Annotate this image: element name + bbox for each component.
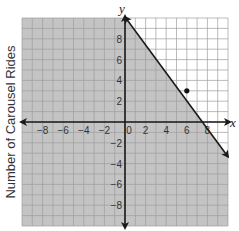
x-tick-label: −2 <box>99 125 111 136</box>
x-tick-label: 2 <box>143 125 149 136</box>
data-point-dot <box>184 88 189 93</box>
y-tick-label: −6 <box>111 179 123 190</box>
data-points <box>184 88 189 93</box>
x-tick-label: 4 <box>163 125 169 136</box>
x-axis-label: x <box>229 115 236 130</box>
y-tick-label: 8 <box>116 34 122 45</box>
y-tick-label: −8 <box>111 200 123 211</box>
x-tick-label: 6 <box>184 125 190 136</box>
y-tick-label: −2 <box>111 138 123 149</box>
y-axis-label: y <box>117 1 125 16</box>
chart: −8−6−4−202468−8−6−4−22468 x y <box>0 0 239 231</box>
x-tick-label: −6 <box>57 125 69 136</box>
y-tick-label: 2 <box>116 96 122 107</box>
y-tick-label: 6 <box>116 55 122 66</box>
y-tick-label: 4 <box>116 75 122 86</box>
x-tick-label: 0 <box>126 125 132 136</box>
x-tick-label: −4 <box>78 125 90 136</box>
y-tick-label: −4 <box>111 159 123 170</box>
x-tick-label: −8 <box>37 125 49 136</box>
